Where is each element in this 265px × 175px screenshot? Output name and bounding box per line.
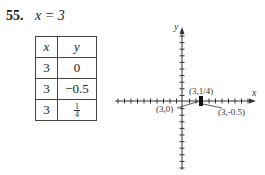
label-3-quarter: (3,1/4)	[189, 86, 213, 96]
label-3-0: (3,0)	[156, 104, 173, 114]
y-axis-label: y	[173, 21, 179, 32]
label-3-neg-half: (3,-0.5)	[218, 107, 245, 117]
y-axis-arrow-icon	[180, 27, 185, 34]
y-axis	[180, 30, 185, 170]
coordinate-graph: x y (3,1/4) (3,0) (3,-0.5)	[0, 0, 265, 175]
x-axis	[115, 99, 253, 104]
leader-3-0	[177, 101, 200, 108]
x-axis-label: x	[251, 87, 257, 98]
x-axis-arrow-icon	[249, 99, 256, 104]
